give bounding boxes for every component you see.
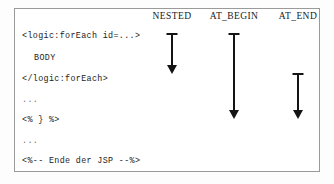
arrow-shaft-nested	[171, 34, 173, 66]
arrow-head-at-begin	[229, 110, 239, 119]
code-line-close-tag: </logic:forEach>	[22, 74, 108, 84]
arrow-head-nested	[167, 65, 177, 74]
code-line-ellipsis-second: ...	[22, 136, 38, 146]
arrow-shaft-at-begin	[233, 34, 235, 111]
column-header-nested: NESTED	[153, 11, 192, 21]
arrow-shaft-at-end	[297, 74, 299, 111]
column-header-at-end: AT_END	[279, 11, 317, 21]
code-line-body: BODY	[34, 53, 56, 63]
code-line-open-tag: <logic:forEach id=...>	[22, 31, 140, 41]
code-line-jsp-end-comment: <%-- Ende der JSP --%>	[22, 156, 140, 166]
code-line-scriptlet-close: <% } %>	[22, 115, 60, 125]
arrow-head-at-end	[293, 110, 303, 119]
code-line-ellipsis-first: ...	[22, 95, 38, 105]
column-header-at-begin: AT_BEGIN	[210, 11, 259, 21]
jsp-variable-scope-figure: NESTED AT_BEGIN AT_END <logic:forEach id…	[0, 0, 334, 184]
